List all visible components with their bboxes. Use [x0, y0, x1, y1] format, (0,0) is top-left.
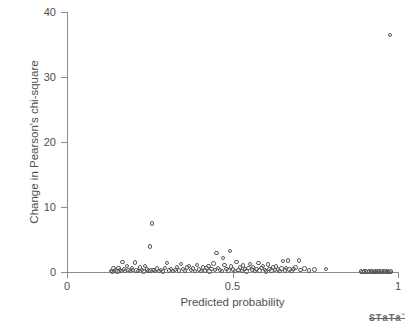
data-point	[211, 261, 215, 265]
data-point	[389, 269, 393, 273]
x-tick-label: 0.5	[208, 281, 258, 292]
data-point	[266, 262, 270, 266]
data-point	[256, 261, 260, 265]
data-point	[324, 267, 328, 271]
data-point	[179, 262, 183, 266]
data-point	[133, 260, 137, 264]
data-point	[312, 267, 316, 271]
y-tick-label: 0	[16, 267, 56, 278]
stata-logo: STaTa™	[369, 313, 405, 324]
plot-area	[67, 6, 403, 272]
scatter-plot-figure: 010203040 00.51 Predicted probability Ch…	[0, 0, 413, 332]
data-point	[120, 260, 124, 264]
y-tick-label: 40	[16, 7, 56, 18]
data-point	[293, 265, 297, 269]
x-tick-mark	[233, 272, 234, 278]
data-point	[281, 259, 285, 263]
x-tick-mark	[398, 272, 399, 278]
y-axis-title: Change in Pearson's chi-square	[28, 22, 40, 262]
data-point	[228, 249, 232, 253]
data-point	[165, 261, 169, 265]
x-axis-title: Predicted probability	[67, 296, 398, 308]
data-point	[221, 256, 225, 260]
data-point	[307, 268, 311, 272]
x-tick-mark	[67, 272, 68, 278]
data-point	[234, 260, 238, 264]
data-point	[388, 33, 392, 37]
x-tick-label: 0	[42, 281, 92, 292]
data-point	[297, 258, 301, 262]
data-point	[286, 258, 290, 262]
trademark-mark: ™	[401, 313, 405, 319]
data-point	[214, 251, 218, 255]
stata-logo-text: STaTa	[369, 313, 402, 324]
data-point	[148, 244, 152, 248]
x-tick-label: 1	[373, 281, 413, 292]
data-point	[150, 221, 154, 225]
